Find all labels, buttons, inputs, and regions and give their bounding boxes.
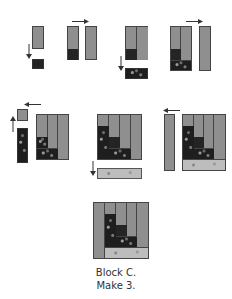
dark-square (32, 59, 44, 69)
arrow-right-icon (72, 18, 90, 25)
caption-line-2: Make 3. (0, 279, 232, 292)
arrow-down-icon (89, 161, 97, 177)
arrow-down-icon (25, 44, 33, 60)
gray-dark-unit (67, 26, 79, 60)
block-c (93, 202, 149, 259)
light-floral-strip (97, 168, 142, 179)
gray-strip (199, 26, 211, 71)
five-part-unit (97, 114, 142, 160)
arrow-right-icon (186, 18, 204, 25)
arrow-left-icon (24, 101, 42, 108)
gray-square (17, 109, 28, 121)
gray-strip (85, 26, 97, 60)
six-part-unit (182, 114, 226, 171)
three-part-unit (170, 26, 192, 71)
two-column-unit (125, 26, 148, 60)
arrow-down-icon (117, 56, 125, 72)
dark-floral-strip (125, 68, 148, 79)
arrow-left-icon (163, 107, 181, 114)
dark-floral-tall-strip (17, 128, 28, 163)
gray-rectangle (32, 26, 44, 49)
gray-tall-strip (164, 114, 175, 171)
caption-line-1: Block C. (0, 266, 232, 279)
arrow-up-icon (9, 116, 17, 132)
four-part-unit (36, 114, 69, 160)
